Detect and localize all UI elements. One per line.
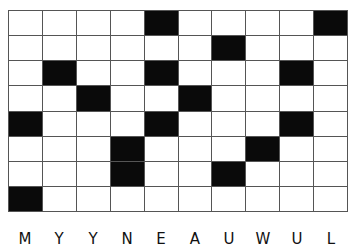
grid-cell-black <box>179 86 213 111</box>
grid-cell-empty[interactable] <box>9 86 43 111</box>
column-label: N <box>110 229 144 248</box>
grid-cell-black <box>9 112 43 137</box>
grid-cell-empty[interactable] <box>77 61 111 86</box>
grid-cell-empty[interactable] <box>212 187 246 212</box>
grid-cell-empty[interactable] <box>111 61 145 86</box>
grid-cell-empty[interactable] <box>179 11 213 36</box>
puzzle-grid <box>8 10 348 212</box>
grid-cell-empty[interactable] <box>246 162 280 187</box>
grid-cell-empty[interactable] <box>246 86 280 111</box>
column-label: L <box>314 229 348 248</box>
grid-cell-empty[interactable] <box>280 162 314 187</box>
column-label: U <box>212 229 246 248</box>
column-label: Y <box>42 229 76 248</box>
grid-cell-empty[interactable] <box>111 11 145 36</box>
grid-cell-empty[interactable] <box>43 112 77 137</box>
grid-cell-empty[interactable] <box>280 137 314 162</box>
grid-cell-empty[interactable] <box>280 86 314 111</box>
grid-cell-empty[interactable] <box>77 162 111 187</box>
grid-cell-empty[interactable] <box>77 137 111 162</box>
grid-cell-empty[interactable] <box>179 187 213 212</box>
grid-cell-empty[interactable] <box>111 86 145 111</box>
grid-cell-empty[interactable] <box>9 162 43 187</box>
grid-cell-black <box>280 112 314 137</box>
grid-cell-black <box>43 61 77 86</box>
grid-cell-empty[interactable] <box>9 36 43 61</box>
grid-cell-empty[interactable] <box>9 11 43 36</box>
grid-cell-empty[interactable] <box>246 61 280 86</box>
grid-cell-empty[interactable] <box>43 36 77 61</box>
grid-cell-empty[interactable] <box>246 11 280 36</box>
grid-cell-empty[interactable] <box>179 36 213 61</box>
grid-cell-empty[interactable] <box>9 137 43 162</box>
grid-cell-empty[interactable] <box>145 162 179 187</box>
grid-cell-black <box>111 162 145 187</box>
grid-cell-empty[interactable] <box>9 61 43 86</box>
grid-cell-empty[interactable] <box>43 162 77 187</box>
grid-cell-empty[interactable] <box>111 187 145 212</box>
grid-cell-empty[interactable] <box>43 187 77 212</box>
grid-cell-black <box>145 11 179 36</box>
grid-cell-empty[interactable] <box>212 86 246 111</box>
grid-cell-empty[interactable] <box>179 112 213 137</box>
grid-cell-empty[interactable] <box>246 36 280 61</box>
grid-cell-empty[interactable] <box>179 162 213 187</box>
grid-cell-empty[interactable] <box>280 36 314 61</box>
grid-cell-black <box>314 11 348 36</box>
column-labels: M Y Y N E A U W U L <box>8 229 348 248</box>
grid-cell-empty[interactable] <box>314 137 348 162</box>
column-label: M <box>8 229 42 248</box>
grid-cell-black <box>212 36 246 61</box>
grid-cell-black <box>280 61 314 86</box>
column-label: E <box>144 229 178 248</box>
grid-cell-empty[interactable] <box>77 187 111 212</box>
grid-cell-empty[interactable] <box>280 11 314 36</box>
grid-cell-black <box>145 61 179 86</box>
grid-cell-empty[interactable] <box>145 187 179 212</box>
grid-cell-empty[interactable] <box>77 112 111 137</box>
column-label: A <box>178 229 212 248</box>
grid-cell-empty[interactable] <box>212 61 246 86</box>
grid-cell-black <box>111 137 145 162</box>
grid-cell-empty[interactable] <box>314 112 348 137</box>
grid-cell-black <box>246 137 280 162</box>
grid-cell-empty[interactable] <box>145 36 179 61</box>
grid-cell-empty[interactable] <box>43 11 77 36</box>
grid-cell-empty[interactable] <box>314 187 348 212</box>
grid-cell-empty[interactable] <box>314 36 348 61</box>
grid-cell-empty[interactable] <box>212 11 246 36</box>
grid-cell-empty[interactable] <box>246 112 280 137</box>
grid-cell-empty[interactable] <box>179 61 213 86</box>
grid-cell-empty[interactable] <box>314 162 348 187</box>
grid-cell-empty[interactable] <box>111 112 145 137</box>
grid-cell-empty[interactable] <box>77 11 111 36</box>
grid-cell-black <box>77 86 111 111</box>
grid-cell-empty[interactable] <box>212 112 246 137</box>
grid-cell-empty[interactable] <box>111 36 145 61</box>
grid-cell-empty[interactable] <box>179 137 213 162</box>
grid-cell-empty[interactable] <box>280 187 314 212</box>
grid-cell-empty[interactable] <box>246 187 280 212</box>
grid-cell-black <box>145 112 179 137</box>
grid-cell-empty[interactable] <box>43 137 77 162</box>
column-label: Y <box>76 229 110 248</box>
grid-cell-empty[interactable] <box>314 61 348 86</box>
grid-cell-empty[interactable] <box>43 86 77 111</box>
grid-cell-black <box>212 162 246 187</box>
grid-cell-empty[interactable] <box>77 36 111 61</box>
column-label: W <box>246 229 280 248</box>
grid-cell-black <box>9 187 43 212</box>
grid-cell-empty[interactable] <box>314 86 348 111</box>
grid-cell-empty[interactable] <box>145 137 179 162</box>
grid-cell-empty[interactable] <box>145 86 179 111</box>
column-label: U <box>280 229 314 248</box>
grid-cell-empty[interactable] <box>212 137 246 162</box>
